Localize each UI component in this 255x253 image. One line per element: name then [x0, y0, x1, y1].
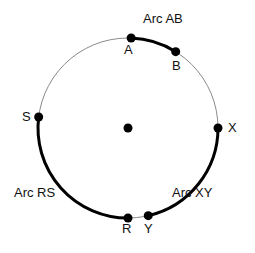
arc-label-xy: Arc XY [172, 186, 212, 199]
point-dot-x [214, 124, 223, 133]
circle-diagram-svg [0, 0, 255, 253]
center-dot [124, 124, 133, 133]
arc-ab-path [131, 38, 176, 52]
point-dot-y [144, 211, 153, 220]
arc-label-ab: Arc AB [143, 12, 183, 25]
arc-label-rs: Arc RS [14, 186, 55, 199]
point-label-a: A [124, 43, 133, 56]
point-dot-b [171, 47, 180, 56]
circle-arc-diagram: A B X Y R S Arc AB Arc XY Arc RS [0, 0, 255, 253]
point-dot-s [34, 113, 43, 122]
point-label-r: R [122, 222, 131, 235]
arc-rs-path [38, 117, 128, 218]
point-label-x: X [228, 121, 237, 134]
point-label-b: B [172, 59, 181, 72]
arc-xy-path [148, 128, 218, 216]
point-label-s: S [22, 110, 31, 123]
point-label-y: Y [144, 222, 153, 235]
